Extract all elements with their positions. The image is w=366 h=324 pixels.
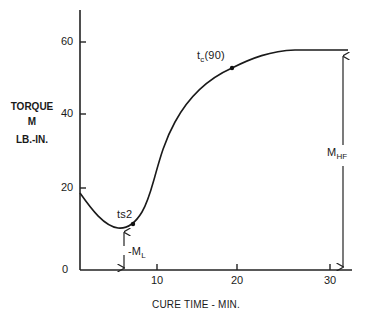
tc90-label-suffix: (90) (204, 49, 224, 61)
y-tick-label-60: 60 (61, 35, 73, 47)
mhf-label-sub: HF (336, 152, 347, 161)
y-tick-label-40: 40 (61, 107, 73, 119)
ts2-label: ts2 (117, 208, 132, 220)
ml-label-sub: L (141, 251, 146, 260)
x-tick-label-20: 20 (231, 274, 243, 286)
y-ticks (80, 42, 86, 188)
cure-curve-line (80, 50, 348, 228)
cure-curve-chart (0, 0, 366, 324)
x-ticks (157, 264, 330, 270)
y-axis-label-line2: M (4, 116, 60, 127)
tc90-marker (230, 66, 234, 70)
y-tick-label-0: 0 (62, 263, 68, 275)
x-tick-label-30: 30 (324, 274, 336, 286)
ts2-marker (131, 222, 135, 226)
y-axis-label-line3: LB.-IN. (4, 134, 60, 145)
mhf-label-main: M (327, 146, 336, 158)
ml-label: -ML (128, 245, 146, 260)
mhf-label: MHF (327, 146, 347, 161)
y-tick-label-20: 20 (61, 181, 73, 193)
x-axis-label: CURE TIME - MIN. (152, 299, 240, 310)
x-tick-label-10: 10 (151, 274, 163, 286)
ml-label-main: -M (128, 245, 141, 257)
y-axis-label-line1: TORQUE (4, 101, 60, 112)
tc90-label: tc(90) (197, 49, 225, 64)
